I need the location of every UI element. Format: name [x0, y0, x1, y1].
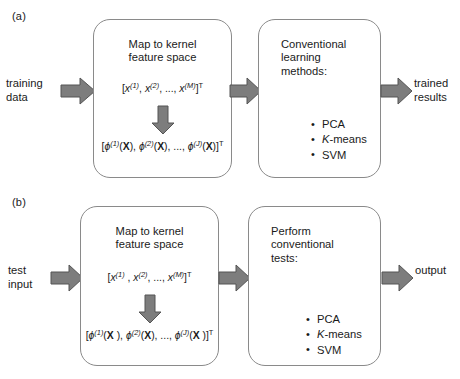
box-a2-bullet-list: PCA K-means SVM	[311, 117, 367, 163]
list-item: SVM	[306, 343, 362, 358]
panel-a-output-label: trained results	[414, 77, 460, 104]
box-b1-formula-top: [x(1) , x(2), ..., x(M)]T	[81, 272, 218, 283]
list-item: SVM	[311, 148, 367, 163]
box-a1-title: Map to kernel feature space	[94, 38, 231, 65]
box-b1-title: Map to kernel feature space	[81, 225, 218, 252]
box-map-to-kernel-b: Map to kernel feature space [x(1) , x(2)…	[80, 206, 219, 366]
list-item: PCA	[311, 117, 367, 132]
box-a1-formula-bottom: [ϕ(1)(X), ϕ(2)(X), ..., ϕ(J)(X)]T	[94, 141, 231, 152]
arrow-box1-to-box2-b	[218, 263, 251, 293]
list-item: PCA	[306, 312, 362, 327]
box-a1-formula-top: [x(1), x(2), ..., x(M)]T	[94, 83, 231, 94]
arrow-box2-to-output-a	[380, 76, 413, 106]
list-item: K-means	[311, 132, 367, 147]
panel-b-output-label: output	[415, 264, 460, 278]
box-b2-bullet-list: PCA K-means SVM	[306, 312, 362, 358]
box-b1-formula-bottom: [ϕ(1)(X ), ϕ(2)(X), ..., ϕ(J)(X )]T	[81, 330, 218, 341]
box-a2-title: Conventional learning methods:	[259, 38, 380, 78]
arrow-down-box1-b	[137, 294, 163, 324]
box-map-to-kernel-a: Map to kernel feature space [x(1), x(2),…	[93, 19, 232, 178]
list-item: K-means	[306, 327, 362, 342]
box-b2-title: Perform conventional tests:	[249, 225, 380, 265]
box-conventional-learning-a: Conventional learning methods: PCA K-mea…	[258, 19, 381, 178]
arrow-down-box1-a	[150, 105, 176, 135]
panel-b: (b) test input Map to kernel feature spa…	[0, 186, 460, 379]
panel-a: (a) training data Map to kernel feature …	[0, 0, 460, 190]
arrow-input-to-box1-a	[60, 76, 96, 106]
panel-a-label: (a)	[12, 10, 26, 22]
box-perform-conventional-tests-b: Perform conventional tests: PCA K-means …	[248, 206, 381, 366]
arrow-input-to-box1-b	[50, 263, 84, 293]
arrow-box2-to-output-b	[381, 263, 414, 293]
panel-b-label: (b)	[12, 196, 26, 208]
